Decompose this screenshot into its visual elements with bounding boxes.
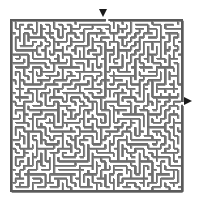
maze-grid — [5, 14, 188, 197]
entrance-arrow-icon — [99, 9, 107, 17]
exit-arrow-icon — [184, 97, 192, 105]
maze-figure — [0, 0, 198, 208]
maze-page: Maze Puzzle — [0, 0, 198, 208]
